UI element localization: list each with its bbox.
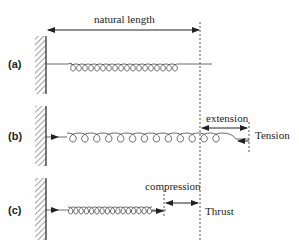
natural-length-label: natural length: [94, 14, 155, 25]
wall-c: [35, 178, 46, 240]
part-c-label: (c): [8, 205, 21, 216]
thrust-label: Thrust: [205, 206, 234, 217]
wall-b: [35, 106, 46, 166]
compression-label: compression: [145, 181, 201, 192]
part-b-label: (b): [8, 131, 22, 142]
part-a-label: (a): [8, 59, 21, 70]
wall-a: [35, 36, 46, 94]
spring-b: [46, 133, 249, 142]
extension-label: extension: [206, 113, 248, 124]
spring-c: [46, 207, 166, 214]
spring-a: [46, 63, 212, 71]
tension-label: Tension: [255, 130, 290, 141]
spring-diagram: [0, 0, 299, 250]
